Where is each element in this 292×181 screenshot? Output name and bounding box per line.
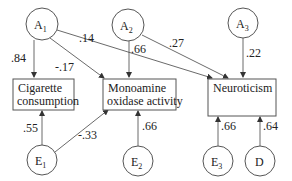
svg-text:D: D — [255, 155, 264, 169]
node-e2: E2 — [123, 146, 153, 176]
weight-a1-cig: .84 — [11, 51, 26, 65]
weight-d-neu: .64 — [263, 119, 278, 133]
node-a3: A3 — [228, 8, 258, 38]
node-e1: E1 — [27, 145, 57, 175]
weight-e3-neu: .66 — [221, 119, 236, 133]
box-label: oxidase activity — [107, 94, 183, 108]
weight-a1-mao: -.17 — [55, 60, 74, 74]
box-monoamine-oxidase-activity: Monoamine oxidase activity — [103, 79, 183, 110]
edge-a2-neu — [142, 35, 228, 78]
node-d: D — [245, 146, 275, 176]
weight-a3-neu: .22 — [246, 46, 261, 60]
box-label: Monoamine — [108, 81, 166, 95]
path-diagram: Cigarette consumption Monoamine oxidase … — [0, 0, 292, 181]
weight-a2-neu: .27 — [169, 36, 184, 50]
node-e3: E3 — [203, 146, 233, 176]
node-a1: A1 — [26, 8, 58, 40]
box-label: Cigarette — [18, 81, 62, 95]
box-label: consumption — [17, 94, 79, 108]
weight-e2-mao: .66 — [142, 119, 157, 133]
weight-a1-neu: .14 — [79, 31, 94, 45]
weight-e1-mao: -.33 — [78, 128, 97, 142]
weight-a2-mao: .66 — [131, 42, 146, 56]
weight-e1-cig: .55 — [23, 121, 38, 135]
node-a2: A2 — [112, 9, 144, 41]
box-cigarette-consumption: Cigarette consumption — [13, 79, 79, 110]
box-label: Neuroticism — [213, 81, 273, 95]
box-neuroticism: Neuroticism — [208, 79, 276, 116]
